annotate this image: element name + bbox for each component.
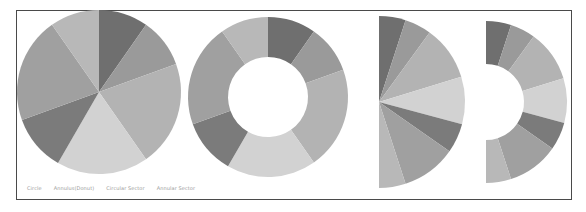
pie-circle [17,10,181,174]
legend-item-annular-sector[interactable]: Annular Sector [157,185,196,191]
legend-item-circular-sector[interactable]: Circular Sector [106,185,144,191]
charts-canvas [0,0,586,212]
pie-annulus [188,17,348,177]
pie-circular-sector [379,16,465,188]
legend-item-circle[interactable]: Circle [27,185,42,191]
legend-item-annulus[interactable]: Annulus(Donut) [54,185,95,191]
pie-annular-sector [486,21,567,183]
legend: Circle Annulus(Donut) Circular Sector An… [27,185,195,191]
